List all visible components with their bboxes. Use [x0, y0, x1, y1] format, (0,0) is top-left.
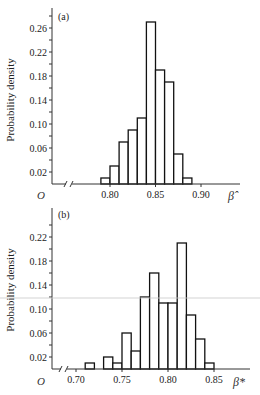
- x-tick-label: 0.85: [147, 189, 165, 200]
- histogram-bar: [196, 339, 205, 369]
- y-tick-label: 0.10: [30, 304, 48, 315]
- histogram-bar: [177, 243, 186, 369]
- panel-b-histogram: (b) Probability density O β* 0.020.060.1…: [4, 208, 250, 389]
- histogram-bar: [156, 70, 165, 184]
- y-tick-label: 0.02: [30, 352, 48, 363]
- histogram-bar: [101, 178, 110, 184]
- histogram-bar: [150, 273, 159, 369]
- panel-a-origin-label: O: [37, 189, 45, 201]
- panel-a-histogram: (a) Probability density O β̂ 0.020.060.1…: [4, 8, 240, 203]
- histogram-bar: [183, 178, 192, 184]
- histogram-bar: [85, 363, 94, 369]
- histogram-bar: [131, 351, 140, 369]
- histogram-bar: [137, 118, 146, 184]
- y-tick-label: 0.18: [30, 71, 48, 82]
- histogram-bar: [159, 303, 168, 369]
- x-tick-label: 0.90: [192, 189, 210, 200]
- y-tick-label: 0.06: [30, 143, 48, 154]
- x-tick-label: 0.80: [159, 374, 177, 385]
- y-tick-label: 0.02: [30, 167, 48, 178]
- histogram-bar: [122, 333, 131, 369]
- histogram-bar: [165, 82, 174, 184]
- histogram-bar: [205, 363, 214, 369]
- axis-break-marker: [64, 181, 73, 187]
- y-tick-label: 0.22: [30, 47, 48, 58]
- panel-b-origin-label: O: [37, 375, 45, 387]
- panel-b-label: (b): [58, 209, 70, 221]
- y-tick-label: 0.22: [30, 232, 48, 243]
- y-tick-label: 0.18: [30, 256, 48, 267]
- y-tick-label: 0.14: [30, 95, 48, 106]
- axis-break-marker: [59, 366, 68, 372]
- y-tick-label: 0.06: [30, 328, 48, 339]
- x-tick-label: 0.80: [101, 189, 119, 200]
- panel-a-label: (a): [58, 11, 69, 23]
- y-tick-label: 0.10: [30, 119, 48, 130]
- histogram-bar: [146, 22, 155, 184]
- panel-b-xlabel: β*: [232, 375, 245, 389]
- panel-a-xlabel: β̂: [227, 189, 239, 203]
- y-tick-label: 0.14: [30, 280, 48, 291]
- panel-b-ylabel: Probability density: [4, 248, 16, 332]
- x-tick-label: 0.75: [113, 374, 131, 385]
- histogram-bar: [104, 357, 113, 369]
- histogram-bar: [113, 363, 122, 369]
- histogram-bar: [119, 142, 128, 184]
- y-tick-label: 0.26: [30, 23, 48, 34]
- histogram-bar: [110, 166, 119, 184]
- panel-a-ylabel: Probability density: [4, 58, 16, 142]
- histogram-bar: [140, 297, 149, 369]
- histogram-bar: [174, 154, 183, 184]
- histogram-figure: (a) Probability density O β̂ 0.020.060.1…: [0, 0, 260, 395]
- x-tick-label: 0.70: [67, 374, 85, 385]
- histogram-bar: [168, 303, 177, 369]
- histogram-bar: [186, 315, 195, 369]
- x-tick-label: 0.85: [205, 374, 223, 385]
- histogram-bar: [128, 130, 137, 184]
